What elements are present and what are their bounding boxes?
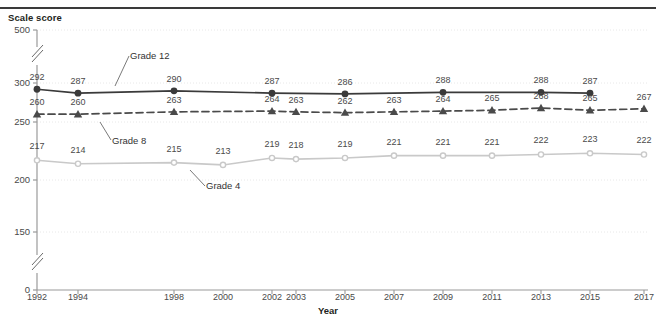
series-annotation-grade-8: Grade 8 xyxy=(112,135,146,146)
y-tick-label-500: 500 xyxy=(0,24,30,35)
data-point-marker xyxy=(440,153,445,158)
series-grade-4 xyxy=(34,151,646,168)
data-point-marker xyxy=(640,105,648,112)
data-point-marker xyxy=(269,155,274,160)
data-point-marker xyxy=(489,153,494,158)
x-tick-label-2003: 2003 xyxy=(276,292,316,302)
data-point-label: 222 xyxy=(533,135,548,145)
data-point-label: 268 xyxy=(533,91,548,101)
data-point-label: 287 xyxy=(264,76,279,86)
data-point-label: 287 xyxy=(582,76,597,86)
data-point-label: 221 xyxy=(435,137,450,147)
data-point-label: 264 xyxy=(264,94,279,104)
data-point-label: 286 xyxy=(337,77,352,87)
data-point-marker xyxy=(342,155,347,160)
y-tick-label-200: 200 xyxy=(0,174,30,185)
x-tick-label-2015: 2015 xyxy=(570,292,610,302)
x-tick-label-2013: 2013 xyxy=(521,292,561,302)
data-point-marker xyxy=(34,86,41,93)
data-point-marker xyxy=(538,152,543,157)
data-point-marker xyxy=(171,87,178,94)
x-tick-label-1994: 1994 xyxy=(58,292,98,302)
series-grade-12 xyxy=(34,86,594,97)
series-line xyxy=(37,153,644,165)
series-line xyxy=(37,108,644,114)
x-tick-label-2011: 2011 xyxy=(472,292,512,302)
x-tick-label-1992: 1992 xyxy=(17,292,57,302)
scale-score-line-chart: Scale score 2922872902872862882882872602… xyxy=(0,0,656,325)
leader-line-grade-4 xyxy=(190,170,205,186)
data-point-label: 214 xyxy=(70,145,85,155)
data-point-label: 221 xyxy=(484,137,499,147)
x-tick-label-2009: 2009 xyxy=(423,292,463,302)
data-point-label: 262 xyxy=(337,96,352,106)
data-point-marker xyxy=(75,90,82,97)
y-tick-label-150: 150 xyxy=(0,226,30,237)
data-point-marker xyxy=(220,162,225,167)
x-tick-label-1998: 1998 xyxy=(154,292,194,302)
plot-area xyxy=(0,0,656,325)
data-point-label: 218 xyxy=(288,140,303,150)
leader-line-grade-8 xyxy=(100,122,111,140)
data-point-label: 263 xyxy=(386,95,401,105)
data-point-label: 292 xyxy=(29,72,44,82)
data-point-label: 221 xyxy=(386,137,401,147)
y-tick-label-300: 300 xyxy=(0,77,30,88)
x-tick-label-2017: 2017 xyxy=(624,292,656,302)
y-axis-break-mark xyxy=(32,253,43,273)
data-point-label: 213 xyxy=(215,146,230,156)
data-point-label: 219 xyxy=(337,139,352,149)
data-point-label: 287 xyxy=(70,76,85,86)
data-point-label: 215 xyxy=(166,144,181,154)
data-point-label: 265 xyxy=(484,93,499,103)
data-point-marker xyxy=(171,160,176,165)
data-point-label: 265 xyxy=(582,93,597,103)
data-point-label: 263 xyxy=(288,95,303,105)
data-point-marker xyxy=(641,152,646,157)
data-point-marker xyxy=(293,157,298,162)
data-point-marker xyxy=(34,158,39,163)
data-point-label: 290 xyxy=(166,74,181,84)
data-point-label: 288 xyxy=(435,75,450,85)
leader-line-grade-12 xyxy=(115,56,129,86)
data-point-label: 260 xyxy=(70,97,85,107)
data-point-label: 219 xyxy=(264,139,279,149)
data-point-label: 217 xyxy=(29,141,44,151)
y-tick-label-250: 250 xyxy=(0,116,30,127)
series-annotation-grade-4: Grade 4 xyxy=(206,180,240,191)
series-grade-8 xyxy=(33,104,648,118)
data-point-label: 222 xyxy=(636,135,651,145)
data-point-marker xyxy=(587,151,592,156)
data-point-label: 264 xyxy=(435,94,450,104)
data-point-label: 263 xyxy=(166,95,181,105)
x-tick-label-2005: 2005 xyxy=(325,292,365,302)
data-point-label: 267 xyxy=(636,92,651,102)
series-annotation-grade-12: Grade 12 xyxy=(130,50,170,61)
y-axis-break-mark xyxy=(32,45,43,65)
data-point-label: 288 xyxy=(533,75,548,85)
x-tick-label-2007: 2007 xyxy=(374,292,414,302)
data-point-marker xyxy=(75,161,80,166)
data-point-marker xyxy=(391,153,396,158)
data-point-label: 260 xyxy=(29,97,44,107)
series-line xyxy=(37,89,590,94)
x-axis-title: Year xyxy=(0,305,656,316)
x-tick-label-2000: 2000 xyxy=(203,292,243,302)
data-point-label: 223 xyxy=(582,134,597,144)
